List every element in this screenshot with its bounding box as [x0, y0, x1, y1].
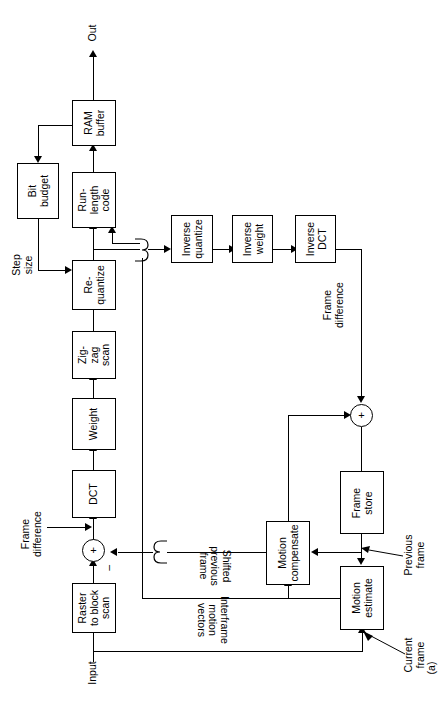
label-out: Out	[87, 25, 99, 42]
wire-invdct-out	[336, 249, 362, 250]
label-shifted-previous-frame: Shiftedpreviousframe	[198, 546, 233, 586]
wire-crossover-hop-icon-2	[150, 540, 170, 564]
block-zig-zag-scan[interactable]: Zig-zagscan	[72, 331, 116, 379]
arrow-frame-difference-left-leader	[85, 523, 92, 531]
wire-hop2-to-adder	[118, 552, 153, 553]
wire-weight-to-zigzag	[93, 379, 94, 398]
wire-runlength-to-ram	[93, 150, 94, 172]
adder-left: +	[82, 539, 105, 562]
arrow-previous-frame-to-motion-estimate	[357, 558, 365, 565]
wire-mc-up-to-adder-line	[288, 415, 289, 522]
wire-hop-to-inverse-quantize	[148, 249, 165, 250]
wire-ram-to-bitbudget-v	[38, 125, 39, 157]
wire-step-size-h	[38, 270, 66, 271]
wire-dct-to-weight	[93, 450, 94, 470]
block-inverse-weight[interactable]: Inverseweight	[232, 215, 273, 263]
arrow-step-size-to-requantize	[65, 266, 72, 274]
block-dct[interactable]: DCT	[72, 470, 116, 518]
block-motion-compensate[interactable]: Motioncompensate	[266, 521, 310, 585]
wire-bitbudget-step-v	[38, 218, 39, 271]
wire-input-tick	[93, 632, 94, 662]
adder-left-minus-sign: –	[103, 565, 115, 571]
wire-ram-to-out	[93, 56, 94, 101]
adder-left-plus: +	[83, 540, 104, 561]
label-input: Input	[87, 661, 99, 684]
wire-requantize-to-runlength	[93, 228, 94, 260]
leader-previous-frame	[361, 530, 405, 558]
wire-zigzag-to-requantize	[93, 309, 94, 331]
block-bit-budget[interactable]: Bitbudget	[17, 163, 59, 219]
block-frame-store-label: Framestore	[351, 487, 374, 517]
wire-raster-to-adder	[93, 565, 94, 585]
block-inverse-dct[interactable]: InverseDCT	[295, 215, 336, 263]
block-bit-budget-label: Bitbudget	[27, 175, 50, 207]
arrow-shifted-prev-to-adder	[110, 548, 117, 556]
block-inverse-quantize[interactable]: Inversequantize	[171, 215, 213, 263]
block-motion-estimate[interactable]: Motionestimate	[340, 566, 384, 630]
block-re-quantize-label: Re-quantize	[83, 265, 106, 305]
block-run-length-code[interactable]: Run-lengthcode	[72, 172, 116, 228]
label-previous-frame: Previousframe	[403, 535, 426, 576]
wire-adder-to-framestore	[361, 427, 362, 472]
wire-adder-to-dct	[93, 518, 94, 540]
block-motion-compensate-label: Motioncompensate	[277, 524, 300, 581]
wire-mc-to-right-adder	[288, 415, 346, 416]
block-ram-buffer-label: RAMbuffer	[83, 110, 106, 137]
block-ram-buffer[interactable]: RAMbuffer	[72, 100, 116, 146]
block-inverse-dct-label: InverseDCT	[304, 222, 327, 256]
wire-motion-vectors	[142, 598, 342, 599]
wire-input-to-motion-estimate	[93, 651, 363, 652]
wire-frame-difference	[361, 249, 362, 399]
label-frame-difference-right: Framedifference	[322, 282, 345, 328]
wire-crossing-vertical	[142, 258, 143, 598]
arrow-framestore-to-mc	[311, 548, 318, 556]
block-diagram-figure: RAMbuffer Bitbudget Run-lengthcode Re-qu…	[0, 0, 446, 705]
arrow-ram-to-bitbudget	[34, 156, 42, 163]
block-inverse-weight-label: Inverseweight	[241, 222, 264, 256]
label-step-size: Stepsize	[11, 254, 34, 276]
arrow-frame-difference-to-adder	[357, 396, 365, 403]
arrow-out	[89, 50, 97, 57]
block-weight-label: Weight	[88, 408, 100, 441]
leader-current-frame	[361, 628, 407, 656]
block-inverse-quantize-label: Inversequantize	[181, 219, 204, 259]
block-dct-label: DCT	[88, 483, 100, 505]
wire-framestore-to-mc	[318, 552, 362, 553]
block-zig-zag-scan-label: Zig-zagscan	[77, 344, 112, 366]
wire-invw-to-invdct	[273, 249, 293, 250]
block-frame-store[interactable]: Framestore	[340, 471, 384, 534]
adder-right: +	[350, 404, 373, 427]
figure-caption: (a)	[426, 662, 438, 675]
block-raster-to-block-scan-label: Rasterto blockscan	[77, 590, 112, 626]
arrow-to-inverse-quantize	[164, 245, 171, 253]
wire-frame-difference-left-leader	[47, 527, 87, 528]
block-raster-to-block-scan[interactable]: Rasterto blockscan	[72, 583, 116, 633]
label-interframe-motion-vectors: Interframemotionvectors	[196, 596, 231, 644]
wire-motion-vectors-up	[288, 585, 289, 599]
block-run-length-code-label: Run-lengthcode	[77, 186, 112, 215]
block-re-quantize[interactable]: Re-quantize	[72, 260, 116, 310]
block-motion-estimate-label: Motionestimate	[351, 578, 374, 618]
wire-ram-to-bitbudget-h	[38, 125, 74, 126]
adder-right-plus: +	[351, 405, 372, 426]
label-frame-difference-left: Framedifference	[20, 511, 43, 557]
block-weight[interactable]: Weight	[72, 398, 116, 450]
